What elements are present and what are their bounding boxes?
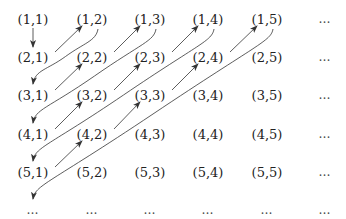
ellipsis-cell: … — [261, 204, 274, 216]
pair-cell: (5,5) — [252, 166, 283, 179]
pair-cell: (5,2) — [77, 166, 108, 179]
ellipsis-cell: … — [144, 204, 157, 216]
pair-cell: (4,3) — [135, 128, 166, 141]
ellipsis-cell: … — [27, 204, 40, 216]
pair-cell: (2,3) — [135, 51, 166, 64]
ellipsis-cell: … — [86, 204, 99, 216]
ellipsis-cell: … — [319, 128, 332, 140]
pair-cell: (2,4) — [193, 51, 224, 64]
pair-cell: (3,5) — [252, 89, 283, 102]
pair-cell: (4,5) — [252, 128, 283, 141]
up-right-arrow-icon — [172, 64, 198, 90]
curved-down-left-arrow-icon — [33, 29, 214, 161]
up-right-arrow-icon — [172, 26, 198, 52]
arrows-layer — [0, 0, 346, 219]
pair-cell: (4,4) — [193, 128, 224, 141]
pair-cell: (3,3) — [135, 89, 166, 102]
pair-cell: (2,2) — [77, 51, 108, 64]
cantor-enumeration-diagram: (1,1)(1,2)(1,3)(1,4)(1,5)…(2,1)(2,2)(2,3… — [0, 0, 346, 219]
pair-cell: (3,2) — [77, 89, 108, 102]
pair-cell: (2,1) — [18, 51, 49, 64]
pair-cell: (4,1) — [18, 128, 49, 141]
up-right-arrow-icon — [230, 26, 257, 52]
ellipsis-cell: … — [319, 204, 332, 216]
pair-cell: (3,1) — [18, 89, 49, 102]
pair-cell: (1,3) — [135, 13, 166, 26]
ellipsis-cell: … — [319, 13, 332, 25]
pair-cell: (3,4) — [193, 89, 224, 102]
up-right-arrow-icon — [114, 26, 140, 52]
ellipsis-cell: … — [319, 51, 332, 63]
pair-cell: (2,5) — [252, 51, 283, 64]
ellipsis-cell: … — [319, 166, 332, 178]
pair-cell: (5,3) — [135, 166, 166, 179]
pair-cell: (1,2) — [77, 13, 108, 26]
pair-cell: (5,4) — [193, 166, 224, 179]
ellipsis-cell: … — [202, 204, 215, 216]
pair-cell: (1,5) — [252, 13, 283, 26]
pair-cell: (1,4) — [193, 13, 224, 26]
pair-cell: (4,2) — [77, 128, 108, 141]
pair-cell: (1,1) — [18, 13, 49, 26]
up-right-arrow-icon — [55, 64, 82, 90]
curved-down-left-arrow-icon — [33, 29, 156, 123]
pair-cell: (5,1) — [18, 166, 49, 179]
ellipsis-cell: … — [319, 89, 332, 101]
